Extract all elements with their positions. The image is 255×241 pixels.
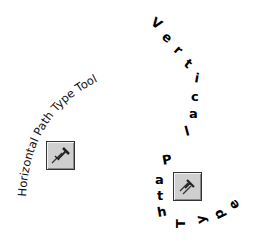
svg-text:V: V xyxy=(148,14,165,32)
svg-text:P: P xyxy=(161,152,173,168)
horizontal-path-type-tool-button[interactable] xyxy=(46,141,75,170)
horizontal-path-type-icon xyxy=(47,142,73,168)
svg-text:h: h xyxy=(156,204,168,220)
svg-text:y: y xyxy=(193,214,209,225)
svg-text:t: t xyxy=(157,188,163,203)
svg-text:a: a xyxy=(189,106,198,121)
svg-text:a: a xyxy=(155,172,164,187)
svg-text:c: c xyxy=(191,89,199,104)
svg-text:e: e xyxy=(225,197,242,213)
svg-text:p: p xyxy=(210,207,228,222)
diagram-canvas: Horizontal Path Type Tool V e r t i c a … xyxy=(0,0,255,241)
svg-text:i: i xyxy=(193,70,200,86)
vertical-path-type-icon xyxy=(174,173,200,199)
svg-text:l: l xyxy=(183,123,191,139)
svg-text:T: T xyxy=(173,219,188,228)
svg-text:r: r xyxy=(171,42,186,58)
horizontal-path-type-label: Horizontal Path Type Tool xyxy=(15,72,99,197)
vertical-path-type-tool-button[interactable] xyxy=(173,172,202,201)
svg-text:e: e xyxy=(159,29,176,46)
svg-text:t: t xyxy=(181,56,195,71)
